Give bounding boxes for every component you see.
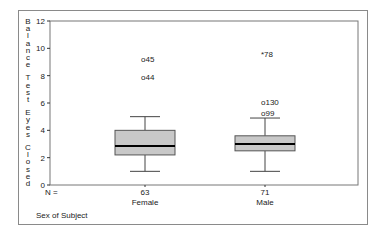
y-tick-label: 12 [36, 17, 45, 26]
category-label: Female [132, 198, 159, 207]
outlier-label: o44 [141, 73, 155, 82]
y-axis-label-char: e [26, 60, 31, 69]
box-female [115, 130, 175, 155]
boxplot-chart: 024681012BalanceTestEyesClosedo45o4463Fe… [0, 0, 388, 241]
outlier-label: o45 [141, 55, 155, 64]
outlier-label: *78 [261, 50, 274, 59]
y-tick-label: 6 [41, 99, 46, 108]
outlier-label: o130 [261, 98, 279, 107]
y-axis-label-char: d [26, 179, 30, 188]
y-tick-label: 8 [41, 72, 46, 81]
y-tick-label: 10 [36, 44, 45, 53]
y-tick-label: 4 [41, 126, 46, 135]
x-axis-label: Sex of Subject [36, 211, 88, 220]
y-tick-label: 2 [41, 154, 46, 163]
outlier-label: o99 [261, 109, 275, 118]
n-label: N = [45, 188, 58, 197]
n-value: 63 [141, 188, 150, 197]
n-value: 71 [261, 188, 270, 197]
y-axis-label-char: s [26, 130, 30, 139]
plot-area [50, 21, 358, 185]
category-label: Male [256, 198, 274, 207]
